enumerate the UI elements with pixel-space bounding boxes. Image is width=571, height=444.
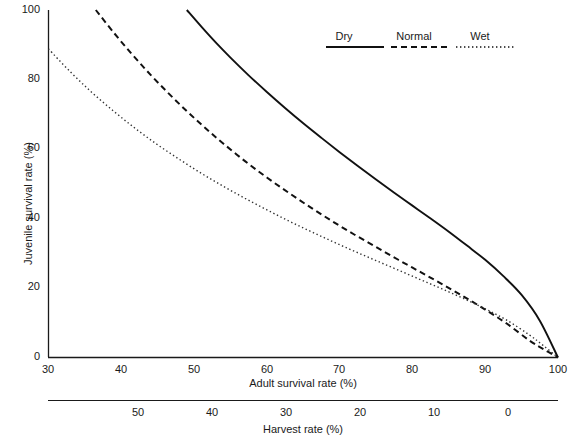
harvest-tick-label-10: 10 (414, 407, 454, 418)
x-tick-label-30: 30 (28, 364, 68, 375)
x-tick-label-100: 100 (538, 364, 571, 375)
chart-figure: 100 80 60 40 20 0 Juvenile survival rate… (0, 0, 571, 444)
data-series-group (49, 10, 559, 358)
y-tick-label-0: 0 (6, 351, 40, 362)
y-tick-label-100: 100 (6, 4, 40, 15)
series-line-dry (187, 10, 558, 358)
y-axis-title: Juvenile survival rate (%) (22, 142, 34, 265)
y-tick-label-20: 20 (6, 281, 40, 292)
harvest-tick-label-0: 0 (488, 407, 528, 418)
harvest-tick-label-20: 20 (340, 407, 380, 418)
harvest-tick-label-40: 40 (192, 407, 232, 418)
x-tick-label-40: 40 (101, 364, 141, 375)
x-tick-label-50: 50 (174, 364, 214, 375)
harvest-tick-label-30: 30 (266, 407, 306, 418)
x-tick-label-80: 80 (392, 364, 432, 375)
y-tick-label-80: 80 (6, 73, 40, 84)
legend-label-normal[interactable]: Normal (385, 30, 443, 42)
x-tick-label-60: 60 (247, 364, 287, 375)
series-line-normal (96, 10, 558, 358)
secondary-x-axis-title: Harvest rate (%) (183, 424, 423, 435)
x-tick-label-90: 90 (465, 364, 505, 375)
legend-label-wet[interactable]: Wet (456, 30, 504, 42)
legend-label-dry[interactable]: Dry (320, 30, 368, 42)
x-tick-label-70: 70 (319, 364, 359, 375)
harvest-tick-label-50: 50 (118, 407, 158, 418)
x-axis-title: Adult survival rate (%) (183, 378, 423, 389)
